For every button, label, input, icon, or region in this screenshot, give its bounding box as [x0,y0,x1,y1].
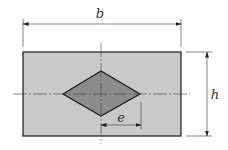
height-label: h [211,87,219,102]
eccentricity-label: e [117,110,125,125]
width-label: b [96,6,104,21]
cross-section-diagram: b h e [0,0,228,150]
